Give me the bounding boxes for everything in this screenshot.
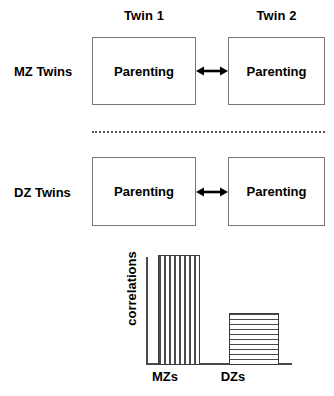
dz-twin1-parenting-label: Parenting: [114, 184, 174, 199]
dz-twin2-parenting-label: Parenting: [247, 184, 307, 199]
dotted-divider: [92, 131, 325, 133]
correlations-bar-chart: correlations MZs DZs: [110, 255, 310, 396]
dz-twin2-parenting-box: Parenting: [228, 157, 325, 226]
mz-correlation-arrow-icon: [196, 64, 228, 78]
mz-twin1-parenting-box: Parenting: [92, 37, 196, 105]
dz-twin1-parenting-box: Parenting: [92, 157, 196, 226]
figure-canvas: Twin 1 Twin 2 MZ Twins Parenting Parenti…: [0, 0, 334, 396]
bar-dzs: [229, 313, 279, 365]
column-header-twin2: Twin 2: [228, 8, 325, 23]
chart-tick-label-mzs: MZs: [135, 369, 195, 384]
row-label-mz-twins: MZ Twins: [14, 64, 72, 79]
chart-y-axis-label: correlations: [124, 242, 139, 336]
bar-mzs: [158, 255, 200, 365]
chart-tick-label-dzs: DZs: [203, 369, 263, 384]
mz-twin2-parenting-box: Parenting: [228, 37, 325, 105]
mz-twin1-parenting-label: Parenting: [114, 64, 174, 79]
column-header-twin1: Twin 1: [92, 8, 196, 23]
mz-twin2-parenting-label: Parenting: [247, 64, 307, 79]
row-label-dz-twins: DZ Twins: [14, 185, 71, 200]
dz-correlation-arrow-icon: [196, 185, 228, 199]
chart-plot-area: [147, 255, 292, 365]
